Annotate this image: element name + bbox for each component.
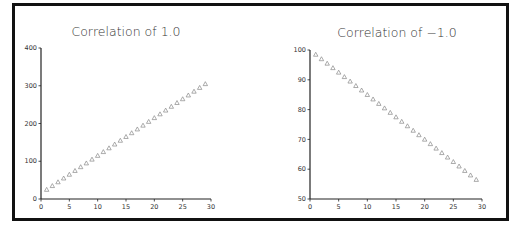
x-tick-label: 30 bbox=[478, 203, 486, 211]
y-tick-label: 0 bbox=[33, 195, 37, 203]
y-tick-label: 90 bbox=[298, 76, 306, 84]
triangle-marker bbox=[377, 101, 381, 105]
triangle-marker bbox=[78, 165, 82, 169]
triangle-marker bbox=[405, 124, 409, 128]
triangle-marker bbox=[152, 116, 156, 120]
y-tick-label: 80 bbox=[298, 106, 306, 114]
x-tick-label: 25 bbox=[179, 203, 187, 211]
y-tick-label: 300 bbox=[25, 82, 37, 90]
triangle-marker bbox=[365, 93, 369, 97]
x-tick-label: 25 bbox=[449, 203, 457, 211]
triangle-marker bbox=[451, 160, 455, 164]
triangle-marker bbox=[468, 173, 472, 177]
triangle-marker bbox=[186, 93, 190, 97]
y-tick-label: 70 bbox=[298, 136, 306, 144]
triangle-marker bbox=[101, 150, 105, 154]
axes-right: 0510152025305060708090100 bbox=[294, 46, 487, 211]
triangle-marker bbox=[73, 168, 77, 172]
triangle-marker bbox=[394, 115, 398, 119]
y-tick-label: 200 bbox=[25, 120, 37, 128]
triangle-marker bbox=[129, 131, 133, 135]
x-tick-label: 0 bbox=[308, 203, 312, 211]
triangle-marker bbox=[463, 168, 467, 172]
chart-title-right: Correlation of −1.0 bbox=[337, 25, 457, 40]
triangle-marker bbox=[146, 119, 150, 123]
triangle-marker bbox=[411, 128, 415, 132]
x-tick-label: 10 bbox=[363, 203, 371, 211]
triangle-marker bbox=[422, 137, 426, 141]
chart-title-left: Correlation of 1.0 bbox=[71, 24, 180, 39]
triangle-marker bbox=[388, 110, 392, 114]
y-tick-label: 100 bbox=[25, 157, 37, 165]
triangle-marker bbox=[371, 97, 375, 101]
triangle-marker bbox=[84, 161, 88, 165]
triangle-marker bbox=[348, 79, 352, 83]
triangle-marker bbox=[457, 164, 461, 168]
triangle-marker bbox=[314, 52, 318, 56]
triangle-marker bbox=[359, 88, 363, 92]
x-tick-label: 30 bbox=[207, 203, 215, 211]
triangle-marker bbox=[56, 180, 60, 184]
scatter-points-right bbox=[314, 52, 479, 181]
triangle-marker bbox=[44, 187, 48, 191]
x-tick-label: 15 bbox=[392, 203, 400, 211]
plot-correlation-negative: Correlation of −1.0 05101520253050607080… bbox=[294, 25, 487, 211]
triangle-marker bbox=[50, 184, 54, 188]
triangle-marker bbox=[169, 104, 173, 108]
triangle-marker bbox=[180, 97, 184, 101]
triangle-marker bbox=[61, 176, 65, 180]
triangle-marker bbox=[67, 172, 71, 176]
triangle-marker bbox=[440, 151, 444, 155]
triangle-marker bbox=[107, 146, 111, 150]
triangle-marker bbox=[192, 89, 196, 93]
triangle-marker bbox=[319, 57, 323, 61]
triangle-marker bbox=[400, 119, 404, 123]
triangle-marker bbox=[331, 66, 335, 70]
triangle-marker bbox=[158, 112, 162, 116]
x-tick-label: 20 bbox=[150, 203, 158, 211]
triangle-marker bbox=[135, 127, 139, 131]
triangle-marker bbox=[342, 75, 346, 79]
triangle-marker bbox=[336, 70, 340, 74]
x-tick-label: 5 bbox=[67, 203, 71, 211]
triangle-marker bbox=[163, 108, 167, 112]
y-tick-label: 100 bbox=[294, 46, 306, 54]
x-tick-label: 15 bbox=[122, 203, 130, 211]
triangle-marker bbox=[434, 146, 438, 150]
triangle-marker bbox=[382, 106, 386, 110]
triangle-marker bbox=[325, 61, 329, 65]
triangle-marker bbox=[474, 177, 478, 181]
x-tick-label: 0 bbox=[39, 203, 43, 211]
x-tick-label: 5 bbox=[337, 203, 341, 211]
x-tick-label: 10 bbox=[94, 203, 102, 211]
triangle-marker bbox=[95, 153, 99, 157]
y-tick-label: 60 bbox=[298, 165, 306, 173]
triangle-marker bbox=[112, 142, 116, 146]
triangle-marker bbox=[175, 101, 179, 105]
axes-left: 0510152025300100200300400 bbox=[25, 44, 216, 211]
plot-correlation-positive: Correlation of 1.0 051015202530010020030… bbox=[25, 24, 216, 211]
triangle-marker bbox=[141, 123, 145, 127]
y-tick-label: 50 bbox=[298, 195, 306, 203]
triangle-marker bbox=[90, 157, 94, 161]
triangle-marker bbox=[118, 138, 122, 142]
triangle-marker bbox=[417, 133, 421, 137]
x-tick-label: 20 bbox=[421, 203, 429, 211]
triangle-marker bbox=[124, 135, 128, 139]
triangle-marker bbox=[354, 84, 358, 88]
y-tick-label: 400 bbox=[25, 44, 37, 52]
triangle-marker bbox=[197, 85, 201, 89]
triangle-marker bbox=[203, 82, 207, 86]
chart-canvas: Correlation of 1.0 051015202530010020030… bbox=[0, 0, 519, 232]
triangle-marker bbox=[428, 142, 432, 146]
triangle-marker bbox=[445, 155, 449, 159]
scatter-points-left bbox=[44, 82, 207, 192]
